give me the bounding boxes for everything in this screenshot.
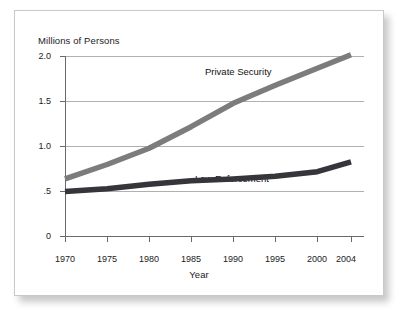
series-line-private-security (65, 55, 351, 179)
chart-surface: Millions of Persons 2.0 1.5 1.0 .5 0 197… (15, 11, 383, 295)
plot-area (15, 11, 383, 295)
figure-root: Millions of Persons 2.0 1.5 1.0 .5 0 197… (0, 0, 409, 319)
chart-card: Millions of Persons 2.0 1.5 1.0 .5 0 197… (14, 10, 384, 296)
